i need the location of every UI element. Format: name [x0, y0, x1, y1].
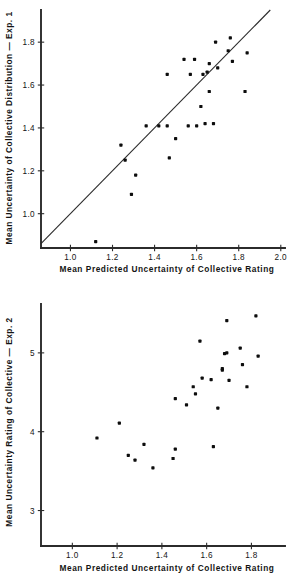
x-axis-tick-label: 1.6	[190, 253, 203, 262]
data-point	[95, 436, 98, 439]
data-point	[225, 351, 228, 354]
data-point	[241, 363, 244, 366]
x-axis-tick-label: 2.0	[275, 253, 288, 262]
x-axis-tick-label: 1.8	[245, 551, 258, 560]
data-point	[198, 339, 201, 342]
data-point	[212, 445, 215, 448]
data-point	[182, 58, 185, 61]
data-point	[245, 385, 248, 388]
x-axis-tick-label: 1.2	[111, 551, 124, 560]
y-axis-title: Mean Uncertainty Rating of Collective — …	[4, 317, 14, 526]
y-axis-tick-label: 1.0	[23, 210, 36, 219]
y-axis-tick-label: 1.8	[23, 38, 36, 47]
data-point	[168, 156, 171, 159]
data-point	[171, 457, 174, 460]
data-point	[174, 397, 177, 400]
data-point	[166, 124, 169, 127]
data-point	[203, 122, 206, 125]
data-point	[257, 354, 260, 357]
data-point	[227, 379, 230, 382]
data-point	[221, 367, 224, 370]
data-point	[254, 314, 257, 317]
data-point	[127, 454, 130, 457]
exp1-chart-panel: 1.01.21.41.61.82.01.01.21.41.61.8Mean Pr…	[0, 0, 291, 290]
data-point	[189, 73, 192, 76]
data-point	[187, 124, 190, 127]
data-point	[157, 124, 160, 127]
x-axis-title: Mean Predicted Uncertainty of Collective…	[60, 264, 275, 274]
data-point	[208, 62, 211, 65]
data-point	[124, 158, 127, 161]
data-point	[201, 377, 204, 380]
x-axis-tick-label: 1.0	[64, 253, 77, 262]
data-point	[212, 122, 215, 125]
data-point	[231, 60, 234, 63]
data-point	[133, 458, 136, 461]
data-point	[185, 403, 188, 406]
identity-reference-line	[41, 10, 270, 244]
data-point	[210, 378, 213, 381]
data-point	[142, 443, 145, 446]
data-point	[130, 193, 133, 196]
data-point	[216, 406, 219, 409]
data-point	[166, 73, 169, 76]
x-axis-title: Mean Predicted Uncertainty of Collective…	[60, 563, 275, 573]
exp2-scatter-plot: 1.01.21.41.61.8345Mean Predicted Uncerta…	[0, 290, 291, 581]
data-point	[195, 124, 198, 127]
y-axis-tick-label: 1.6	[23, 81, 36, 90]
x-axis-tick-label: 1.4	[156, 551, 169, 560]
data-point	[134, 174, 137, 177]
exp1-scatter-plot: 1.01.21.41.61.82.01.01.21.41.61.8Mean Pr…	[0, 0, 291, 290]
y-axis-tick-label: 1.4	[23, 124, 36, 133]
data-point	[174, 447, 177, 450]
x-axis-tick-label: 1.8	[233, 253, 246, 262]
data-point	[208, 90, 211, 93]
data-point	[194, 392, 197, 395]
data-point	[193, 58, 196, 61]
data-point	[206, 71, 209, 74]
y-axis-tick-label: 1.2	[23, 167, 36, 176]
x-axis-tick-label: 1.2	[106, 253, 119, 262]
exp2-chart-panel: 1.01.21.41.61.8345Mean Predicted Uncerta…	[0, 290, 291, 581]
data-point	[151, 466, 154, 469]
x-axis-tick-label: 1.4	[148, 253, 161, 262]
y-axis-title: Mean Uncertainty of Collective Distribut…	[4, 12, 14, 245]
data-point	[174, 137, 177, 140]
y-axis-tick-label: 4	[30, 428, 35, 437]
data-point	[192, 385, 195, 388]
data-point	[225, 319, 228, 322]
data-point	[201, 73, 204, 76]
data-point	[94, 240, 97, 243]
x-axis-tick-label: 1.0	[66, 551, 79, 560]
data-point	[216, 66, 219, 69]
data-point	[229, 36, 232, 39]
data-point	[118, 421, 121, 424]
data-point	[214, 41, 217, 44]
data-point	[199, 105, 202, 108]
data-point	[239, 347, 242, 350]
y-axis-tick-label: 3	[30, 507, 35, 516]
data-point	[246, 51, 249, 54]
data-point	[119, 143, 122, 146]
data-point	[243, 90, 246, 93]
data-point	[145, 124, 148, 127]
x-axis-tick-label: 1.6	[200, 551, 213, 560]
y-axis-tick-label: 5	[30, 349, 35, 358]
data-point	[227, 49, 230, 52]
